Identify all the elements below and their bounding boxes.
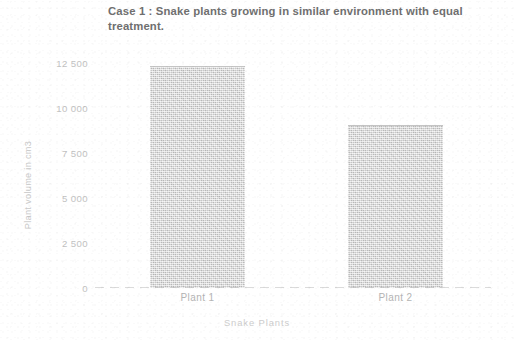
x-axis-title: Snake Plants: [0, 317, 514, 328]
chart-title: Case 1 : Snake plants growing in similar…: [108, 4, 498, 34]
y-axis-tick-label: 12 500: [20, 58, 88, 69]
y-axis-tick-label: 0: [20, 283, 88, 294]
y-axis-tick-label: 7 500: [20, 148, 88, 159]
y-axis-tick-label: 2 500: [20, 238, 88, 249]
y-axis-tick-label: 10 000: [20, 103, 88, 114]
y-axis-tick-label: 5 000: [20, 193, 88, 204]
plot-area: [95, 45, 487, 288]
bar-plant-1[interactable]: [150, 66, 245, 288]
bar-plant-2[interactable]: [348, 125, 443, 288]
x-axis-tick-label-plant-1: Plant 1: [133, 292, 263, 303]
x-axis-tick-label-plant-2: Plant 2: [331, 292, 461, 303]
zero-baseline: [95, 287, 491, 288]
y-axis-tick-labels: 12 500 10 000 7 500 5 000 2 500 0: [16, 0, 88, 340]
